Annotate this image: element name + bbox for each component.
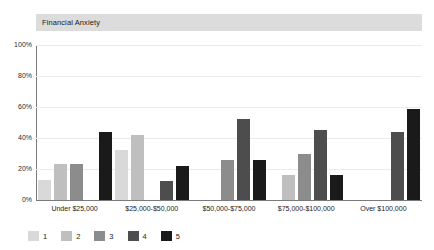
bar[interactable]: [115, 150, 128, 200]
bar[interactable]: [237, 119, 250, 200]
bar[interactable]: [391, 132, 404, 200]
legend-label: 5: [176, 232, 180, 241]
legend-item[interactable]: 2: [61, 231, 80, 241]
bar[interactable]: [38, 180, 51, 200]
bar[interactable]: [99, 132, 112, 200]
bar-slot: [376, 45, 388, 200]
bar-slot: [221, 45, 234, 200]
x-axis-category-label: $25,000-$50,000: [113, 205, 190, 212]
bar-slot: [54, 45, 67, 200]
bar-group: [113, 45, 190, 200]
x-axis-category-label: $50,000-$75,000: [190, 205, 267, 212]
bar[interactable]: [407, 109, 420, 200]
bar-group: [268, 45, 345, 200]
bar-group: [36, 45, 113, 200]
y-axis-tick-label: 0%: [0, 196, 32, 203]
bar-slot: [192, 45, 204, 200]
bar[interactable]: [298, 154, 311, 201]
bar[interactable]: [70, 164, 83, 200]
chart-legend: 12345: [28, 231, 194, 241]
bar-group: [190, 45, 267, 200]
bar-slot: [407, 45, 420, 200]
bar-slot: [237, 45, 250, 200]
bar[interactable]: [54, 164, 67, 200]
legend-label: 1: [43, 232, 47, 241]
legend-item[interactable]: 5: [161, 231, 180, 241]
y-axis-tick-label: 40%: [0, 134, 32, 141]
bar-slot: [115, 45, 128, 200]
legend-label: 3: [109, 232, 113, 241]
bar-slot: [131, 45, 144, 200]
bar-slot: [99, 45, 112, 200]
bar[interactable]: [131, 135, 144, 200]
legend-swatch: [28, 231, 39, 241]
legend-item[interactable]: 1: [28, 231, 47, 241]
legend-label: 4: [143, 232, 147, 241]
legend-swatch: [161, 231, 172, 241]
x-axis-category-label: Over $100,000: [345, 205, 422, 212]
legend-swatch: [61, 231, 72, 241]
bar-slot: [391, 45, 404, 200]
bar-slot: [330, 45, 343, 200]
x-axis-category-label: Under $25,000: [36, 205, 113, 212]
y-axis-tick-label: 60%: [0, 103, 32, 110]
bar-slot: [314, 45, 327, 200]
legend-item[interactable]: 3: [94, 231, 113, 241]
bar-slot: [269, 45, 279, 200]
bar-slot: [361, 45, 373, 200]
y-axis-tick-label: 80%: [0, 72, 32, 79]
bar-slot: [206, 45, 218, 200]
bar-slot: [147, 45, 157, 200]
bar-slot: [86, 45, 96, 200]
financial-anxiety-bar-chart: Financial Anxiety 0%20%40%60%80%100% Und…: [0, 0, 434, 250]
bar-slot: [253, 45, 266, 200]
plot-area: [36, 45, 422, 200]
legend-swatch: [94, 231, 105, 241]
bar-slot: [70, 45, 83, 200]
bar[interactable]: [330, 175, 343, 200]
bar-slot: [160, 45, 173, 200]
bar[interactable]: [176, 166, 189, 200]
bar[interactable]: [160, 181, 173, 200]
y-axis-tick-label: 20%: [0, 165, 32, 172]
bar[interactable]: [221, 160, 234, 200]
bar[interactable]: [282, 175, 295, 200]
bar-slot: [298, 45, 311, 200]
bar-slot: [282, 45, 295, 200]
legend-swatch: [128, 231, 139, 241]
bar-group: [345, 45, 422, 200]
bar-slot: [38, 45, 51, 200]
x-axis-category-label: $75,000-$100,000: [268, 205, 345, 212]
bar[interactable]: [314, 130, 327, 200]
x-axis-line: [36, 200, 422, 201]
chart-title-band: Financial Anxiety: [36, 14, 422, 31]
chart-title: Financial Anxiety: [42, 18, 100, 27]
legend-item[interactable]: 4: [128, 231, 147, 241]
bar-slot: [176, 45, 189, 200]
y-axis-tick-label: 100%: [0, 41, 32, 48]
legend-label: 2: [76, 232, 80, 241]
bar-slot: [346, 45, 358, 200]
bar[interactable]: [253, 160, 266, 200]
